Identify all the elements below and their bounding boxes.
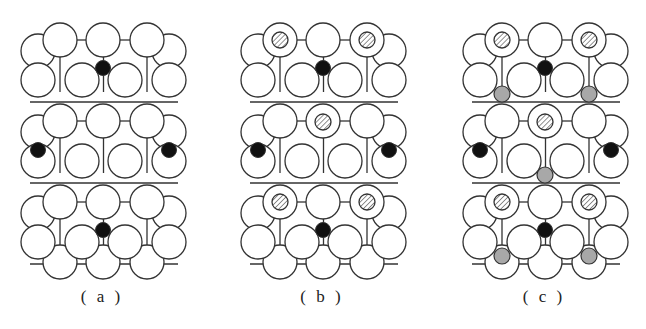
substrate-atom bbox=[328, 225, 362, 259]
substrate-atom bbox=[594, 63, 628, 97]
substrate-atom bbox=[528, 185, 562, 219]
panel-a bbox=[21, 23, 186, 279]
substrate-atom bbox=[350, 104, 384, 138]
black-atom bbox=[382, 143, 397, 158]
substrate-atom bbox=[306, 23, 340, 57]
gray-adsorbate bbox=[581, 248, 597, 264]
black-atom bbox=[162, 143, 177, 158]
substrate-atom bbox=[328, 63, 362, 97]
black-atom bbox=[96, 61, 111, 76]
hatched-adsorbate bbox=[494, 194, 510, 210]
substrate-atom bbox=[86, 23, 120, 57]
substrate-atom bbox=[550, 225, 584, 259]
substrate-atom bbox=[65, 63, 99, 97]
hatched-adsorbate bbox=[359, 194, 375, 210]
substrate-atom bbox=[485, 104, 519, 138]
substrate-atom bbox=[572, 104, 606, 138]
substrate-atom bbox=[130, 23, 164, 57]
substrate-atom bbox=[130, 185, 164, 219]
substrate-atom bbox=[108, 63, 142, 97]
substrate-atom bbox=[328, 144, 362, 178]
hatched-adsorbate bbox=[359, 32, 375, 48]
substrate-atom bbox=[550, 63, 584, 97]
substrate-atom bbox=[241, 225, 275, 259]
substrate-atom bbox=[550, 144, 584, 178]
substrate-atom bbox=[372, 63, 406, 97]
substrate-atom bbox=[507, 225, 541, 259]
substrate-atom bbox=[86, 104, 120, 138]
black-atom bbox=[31, 143, 46, 158]
substrate-atom bbox=[528, 23, 562, 57]
caption-a: ( a ) bbox=[72, 287, 132, 307]
hatched-adsorbate bbox=[272, 194, 288, 210]
substrate-atom bbox=[463, 63, 497, 97]
substrate-atom bbox=[130, 104, 164, 138]
substrate-atom bbox=[285, 225, 319, 259]
substrate-atom bbox=[43, 23, 77, 57]
hatched-adsorbate bbox=[537, 114, 553, 130]
substrate-atom bbox=[507, 144, 541, 178]
lattice-figure bbox=[0, 0, 646, 329]
substrate-atom bbox=[43, 185, 77, 219]
hatched-adsorbate bbox=[272, 32, 288, 48]
substrate-atom bbox=[43, 104, 77, 138]
black-atom bbox=[251, 143, 266, 158]
black-atom bbox=[538, 61, 553, 76]
black-atom bbox=[96, 223, 111, 238]
substrate-atom bbox=[372, 225, 406, 259]
caption-b: ( b ) bbox=[292, 287, 352, 307]
black-atom bbox=[473, 143, 488, 158]
black-atom bbox=[316, 61, 331, 76]
panel-b bbox=[241, 23, 406, 279]
substrate-atom bbox=[65, 225, 99, 259]
substrate-atom bbox=[152, 225, 186, 259]
hatched-adsorbate bbox=[581, 32, 597, 48]
substrate-atom bbox=[594, 225, 628, 259]
gray-adsorbate bbox=[494, 248, 510, 264]
substrate-atom bbox=[108, 144, 142, 178]
black-atom bbox=[538, 223, 553, 238]
black-atom bbox=[604, 143, 619, 158]
substrate-atom bbox=[86, 185, 120, 219]
substrate-atom bbox=[152, 63, 186, 97]
substrate-atom bbox=[507, 63, 541, 97]
substrate-atom bbox=[285, 63, 319, 97]
substrate-atom bbox=[463, 225, 497, 259]
substrate-atom bbox=[241, 63, 275, 97]
substrate-atom bbox=[285, 144, 319, 178]
gray-adsorbate bbox=[494, 86, 510, 102]
panel-c bbox=[463, 23, 628, 279]
substrate-atom bbox=[306, 185, 340, 219]
substrate-atom bbox=[65, 144, 99, 178]
caption-c: ( c ) bbox=[514, 287, 574, 307]
hatched-adsorbate bbox=[315, 114, 331, 130]
gray-adsorbate bbox=[581, 86, 597, 102]
substrate-atom bbox=[108, 225, 142, 259]
black-atom bbox=[316, 223, 331, 238]
gray-adsorbate bbox=[537, 167, 553, 183]
substrate-atom bbox=[21, 225, 55, 259]
substrate-atom bbox=[263, 104, 297, 138]
substrate-atom bbox=[21, 63, 55, 97]
hatched-adsorbate bbox=[581, 194, 597, 210]
panels-group bbox=[21, 23, 628, 279]
hatched-adsorbate bbox=[494, 32, 510, 48]
